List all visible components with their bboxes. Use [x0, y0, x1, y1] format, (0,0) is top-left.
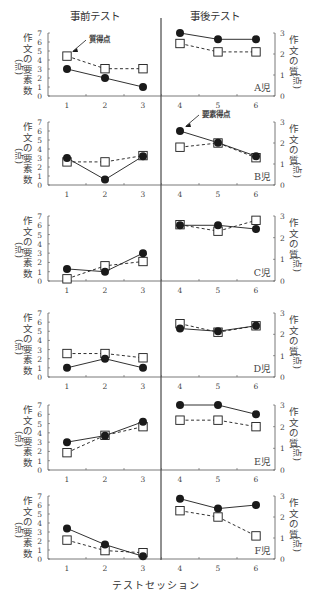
left-tick-label: 4	[37, 429, 42, 438]
left-axis-title-char: 数	[23, 268, 33, 279]
left-tick-label: 1	[37, 83, 42, 92]
right-axis-title-char: の	[289, 55, 299, 66]
x-tick-label: 3	[141, 190, 146, 199]
quality-marker-square	[176, 507, 184, 515]
annotation-arrow-line	[73, 40, 86, 51]
left-axis-title-char: 文	[23, 506, 33, 517]
left-tick-label: 4	[37, 519, 42, 528]
left-axis-title-char: 素	[23, 446, 33, 457]
elements-marker-circle	[101, 355, 109, 363]
elements-marker-circle	[214, 327, 222, 335]
quality-marker-square	[139, 354, 147, 362]
x-tick-label: 2	[103, 475, 108, 484]
x-tick-label: 1	[65, 475, 70, 484]
right-axis-title-char: 作	[289, 314, 299, 325]
quality-marker-square	[139, 65, 147, 73]
right-axis-unit: (点)	[292, 445, 302, 461]
left-axis-title-char: 作	[23, 121, 33, 132]
right-tick-label: 0	[280, 181, 285, 190]
quality-marker-square	[214, 48, 222, 56]
right-tick-label: 2	[280, 139, 285, 148]
elements-marker-circle	[214, 505, 222, 513]
right-axis-title-char: の	[289, 427, 299, 438]
annotation-label: 要素得点	[202, 109, 231, 119]
elements-marker-circle	[176, 325, 184, 333]
elements-marker-circle	[214, 221, 222, 229]
left-axis-unit: (点)	[14, 431, 24, 447]
left-tick-label: 2	[37, 537, 42, 546]
left-axis-title-char: 数	[23, 548, 33, 559]
x-tick-label: 5	[216, 475, 221, 484]
elements-marker-circle	[214, 35, 222, 43]
x-tick-label: 2	[103, 382, 108, 391]
right-tick-label: 2	[280, 330, 285, 339]
right-axis-unit: (点)	[292, 162, 302, 178]
elements-marker-circle	[101, 74, 109, 82]
left-tick-label: 0	[37, 555, 42, 564]
elements-marker-circle	[63, 364, 71, 372]
x-tick-label: 2	[103, 101, 108, 110]
quality-marker-square	[176, 39, 184, 47]
right-tick-label: 1	[280, 71, 285, 80]
left-axis-title-char: 素	[23, 537, 33, 548]
annotation-arrow-head	[72, 48, 78, 52]
left-tick-label: 5	[37, 47, 42, 56]
quality-marker-square	[176, 416, 184, 424]
elements-marker-circle	[101, 268, 109, 276]
left-tick-label: 1	[37, 546, 42, 555]
x-tick-label: 3	[141, 564, 146, 573]
left-tick-label: 7	[37, 401, 42, 410]
left-axis-title-char: 数	[23, 174, 33, 185]
elements-marker-circle	[139, 152, 147, 160]
left-tick-label: 6	[37, 318, 42, 327]
left-tick-label: 0	[37, 181, 42, 190]
quality-marker-square	[252, 532, 260, 540]
x-tick-label: 6	[254, 286, 259, 295]
elements-marker-circle	[176, 401, 184, 409]
elements-marker-circle	[139, 83, 147, 91]
right-tick-label: 2	[280, 50, 285, 59]
left-axis-title-char: 数	[23, 365, 33, 376]
elements-marker-circle	[176, 127, 184, 135]
quality-marker-square	[101, 65, 109, 73]
x-tick-label: 6	[254, 564, 259, 573]
x-tick-label: 6	[254, 101, 259, 110]
left-axis-title-char: 作	[23, 312, 33, 323]
x-tick-label: 1	[65, 382, 70, 391]
right-tick-label: 1	[280, 444, 285, 453]
elements-marker-circle	[63, 154, 71, 162]
panel-label: E児	[254, 456, 271, 467]
right-axis-title-char: の	[289, 335, 299, 346]
left-axis-title-char: 素	[23, 354, 33, 365]
quality-marker-square	[214, 416, 222, 424]
x-axis-title: テストセッション	[0, 577, 311, 592]
elements-marker-circle	[139, 418, 147, 426]
x-tick-label: 5	[216, 101, 221, 110]
elements-marker-circle	[139, 249, 147, 257]
right-tick-label: 1	[280, 255, 285, 264]
left-tick-label: 3	[37, 249, 42, 258]
elements-marker-circle	[63, 65, 71, 73]
left-tick-label: 7	[37, 492, 42, 501]
right-axis-title-char: 文	[289, 45, 299, 56]
left-tick-label: 6	[37, 38, 42, 47]
elements-marker-circle	[101, 176, 109, 184]
x-tick-label: 1	[65, 564, 70, 573]
x-tick-label: 5	[216, 190, 221, 199]
quality-marker-square	[63, 349, 71, 357]
right-axis-unit: (点)	[292, 256, 302, 272]
left-tick-label: 6	[37, 127, 42, 136]
left-tick-label: 4	[37, 240, 42, 249]
right-tick-label: 3	[280, 212, 285, 221]
left-axis-title-char: 数	[23, 457, 33, 468]
x-tick-label: 4	[178, 101, 183, 110]
left-axis-title-char: 素	[23, 74, 33, 85]
right-tick-label: 3	[280, 309, 285, 318]
elements-marker-circle	[176, 221, 184, 229]
x-tick-label: 1	[65, 286, 70, 295]
elements-marker-circle	[252, 410, 260, 418]
right-tick-label: 0	[280, 92, 285, 101]
elements-marker-circle	[176, 495, 184, 503]
left-axis-title-char: 作	[23, 404, 33, 415]
left-tick-label: 6	[37, 501, 42, 510]
